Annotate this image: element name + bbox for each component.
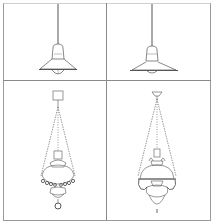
- panel-top-right: pendant lamp with flat wide shade, hangi…: [107, 4, 211, 80]
- hanging-oil-lamp-icon: [4, 81, 106, 221]
- pendant-lamp-flat-shade-icon: [107, 4, 211, 80]
- panel-top-left: pendant lamp with wide conical shade and…: [4, 4, 106, 80]
- panel-bottom-left: chain-hung oil lamp with globe and beade…: [4, 81, 106, 221]
- ornate-hanging-oil-lamp-icon: [107, 81, 211, 221]
- pendant-lamp-conical-icon: [4, 4, 106, 80]
- panel-bottom-right: ornate chain-hung oil lamp with dome sha…: [107, 81, 211, 221]
